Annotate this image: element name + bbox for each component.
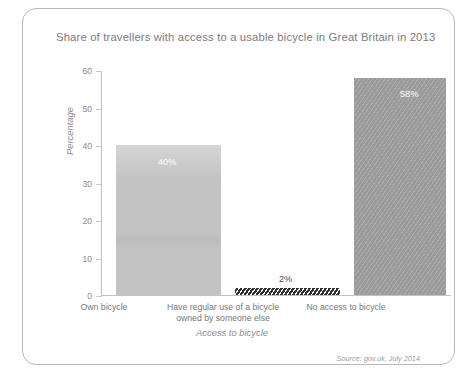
category-label-no-access: No access to bicycle	[281, 302, 411, 313]
y-tick-20: 20	[96, 221, 102, 222]
y-axis-title: Percentage	[64, 107, 75, 155]
y-tick-30: 30	[96, 184, 102, 185]
y-tick-50: 50	[96, 109, 102, 110]
y-tick-label-40: 40	[82, 141, 92, 151]
y-tick-60: 60	[96, 71, 102, 72]
category-label-line: Have regular use of a bicycle	[158, 302, 288, 313]
y-tick-label-30: 30	[82, 179, 92, 189]
y-tick-label-60: 60	[82, 66, 92, 76]
y-tick-0: 0	[96, 296, 102, 297]
category-label-line: No access to bicycle	[281, 302, 411, 313]
bar-value-regular-use: 2%	[279, 274, 292, 284]
plot-area: 60 50 40 30 20 10 0 40% 2% 58%	[101, 71, 451, 296]
y-tick-label-10: 10	[82, 254, 92, 264]
y-tick-label-20: 20	[82, 216, 92, 226]
y-tick-label-50: 50	[82, 104, 92, 114]
bar-no-access[interactable]	[354, 78, 446, 296]
y-tick-10: 10	[96, 259, 102, 260]
bar-value-no-access: 58%	[400, 89, 418, 99]
category-label-line: owned by someone else	[158, 313, 288, 324]
bar-own-bicycle[interactable]	[116, 145, 221, 295]
chart-card: Share of travellers with access to a usa…	[22, 8, 455, 365]
bar-regular-use[interactable]	[235, 288, 340, 296]
x-axis-title: Access to bicycle	[0, 327, 464, 338]
category-label-own-bicycle: Own bicycle	[39, 302, 169, 313]
y-tick-label-0: 0	[87, 291, 92, 301]
bar-value-own-bicycle: 40%	[158, 157, 176, 167]
category-label-line: Own bicycle	[39, 302, 169, 313]
category-label-regular-use: Have regular use of a bicycle owned by s…	[158, 302, 288, 324]
y-tick-40: 40	[96, 146, 102, 147]
chart-title: Share of travellers with access to a usa…	[56, 31, 456, 43]
source-note: Source: gov.uk, July 2014	[337, 354, 420, 363]
